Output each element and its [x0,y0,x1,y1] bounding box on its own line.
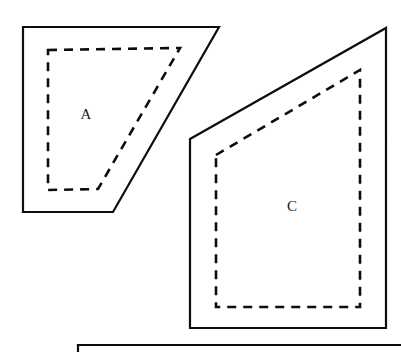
shape-c-inner-dashed-boundary[interactable] [216,70,360,307]
shape-partial-bottom-outline[interactable] [78,345,401,352]
region-label-c: C [287,199,297,214]
region-label-a: A [81,107,92,122]
figure-canvas: A C [0,0,401,353]
shape-a-inner-dashed-boundary[interactable] [48,48,180,190]
geometry-diagram [0,0,401,353]
